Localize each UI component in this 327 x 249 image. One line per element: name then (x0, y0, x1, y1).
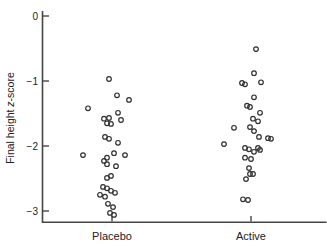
data-point (103, 194, 108, 199)
data-point (119, 118, 124, 123)
data-point (248, 125, 253, 130)
strip-plot-svg: 0 −1 −2 −3 Placebo Active Final height z… (0, 0, 327, 249)
data-point (251, 116, 256, 121)
data-point (107, 137, 112, 142)
data-point (246, 198, 251, 203)
data-point (114, 164, 119, 169)
data-point (232, 126, 237, 131)
data-point (254, 47, 259, 52)
data-point (112, 213, 117, 218)
x-tick-marks (112, 216, 251, 222)
data-point (259, 80, 264, 85)
y-tick-label-0: 0 (32, 11, 38, 22)
data-point (244, 177, 249, 182)
data-point (107, 116, 112, 121)
strip-plot-figure: 0 −1 −2 −3 Placebo Active Final height z… (0, 0, 327, 249)
category-label-active: Active (236, 230, 266, 242)
category-label-placebo: Placebo (92, 230, 132, 242)
data-point (105, 162, 110, 167)
data-point (241, 197, 246, 202)
data-point (116, 141, 121, 146)
data-point (222, 142, 227, 147)
data-point (252, 150, 257, 155)
data-point (105, 176, 110, 181)
data-points-placebo (81, 77, 132, 218)
data-point (258, 111, 263, 116)
data-point (116, 111, 121, 116)
y-tick-label-1: −1 (27, 76, 39, 87)
data-point (81, 153, 86, 158)
y-tick-label-2: −2 (27, 141, 39, 152)
data-point (113, 191, 118, 196)
data-point (127, 98, 132, 103)
axes (42, 11, 327, 223)
data-point (252, 129, 257, 134)
data-point (123, 153, 128, 158)
data-point (86, 106, 91, 111)
data-point (243, 155, 248, 160)
y-tick-label-3: −3 (27, 206, 39, 217)
data-point (252, 95, 257, 100)
data-point (102, 116, 107, 121)
x-category-labels: Placebo Active (92, 230, 266, 242)
data-point (257, 135, 262, 140)
data-point (107, 77, 112, 82)
data-point (249, 157, 254, 162)
y-tick-marks (43, 16, 49, 211)
data-point (111, 205, 116, 210)
data-point (115, 93, 120, 98)
data-point (112, 151, 117, 156)
y-tick-labels: 0 −1 −2 −3 (27, 11, 39, 217)
y-axis-title: Final height z-score (4, 72, 16, 164)
data-point (252, 71, 257, 76)
data-point (106, 202, 111, 207)
data-point (256, 119, 261, 124)
data-points-active (222, 47, 274, 203)
data-point (269, 137, 274, 142)
data-point (247, 166, 252, 171)
data-point (98, 193, 103, 198)
data-point (251, 172, 256, 177)
